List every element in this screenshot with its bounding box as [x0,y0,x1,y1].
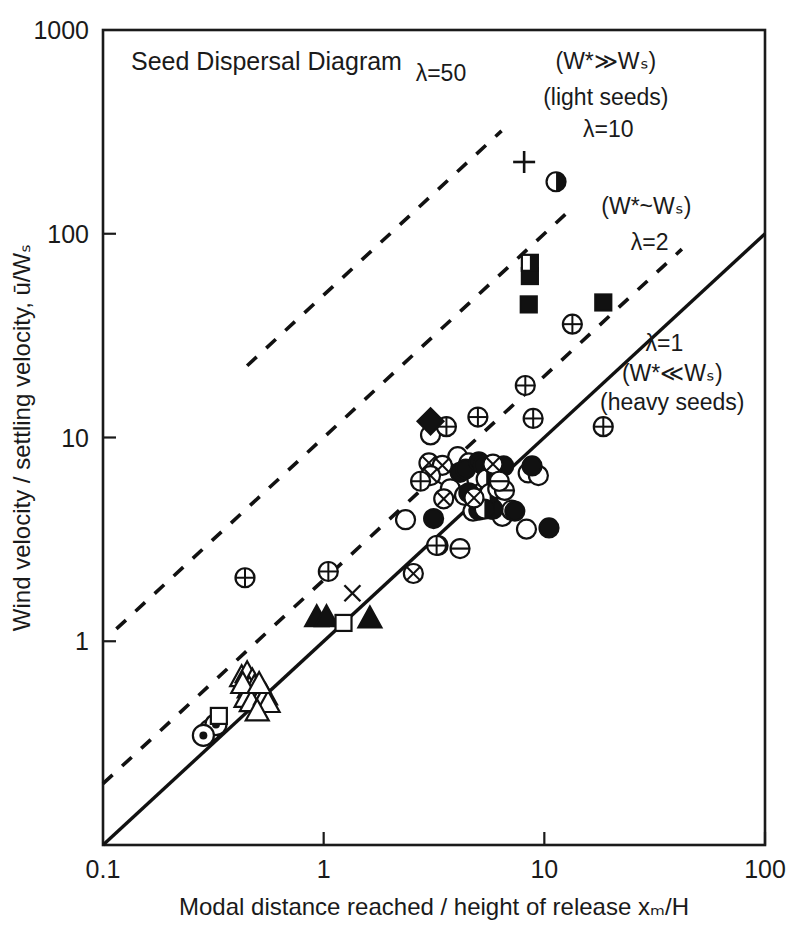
marker-crossed-circle [434,489,453,508]
annotation-lambda-2: λ=2 [631,229,669,255]
marker-circled-dot [193,725,214,746]
annotation-lambda-1: λ=1 [646,330,684,356]
annotation-w-much-greater: (W*≫Wₛ) [556,48,657,74]
annotation-w-approx: (W*~Wₛ) [601,193,691,219]
marker-plus-circle [594,417,613,436]
annotation-heavy-seeds: (heavy seeds) [600,389,744,415]
y-axis-title: Wind velocity / settling velocity, ū/Wₛ [8,244,35,631]
x-tick-label: 0.1 [86,855,121,883]
marker-open-circle [396,510,415,529]
marker-open-square [211,708,227,724]
marker-plus-circle [563,315,582,334]
x-tick-label: 10 [530,855,558,883]
marker-plus-circle [319,562,338,581]
y-tick-label: 1 [75,627,89,655]
y-tick-label: 1000 [33,16,89,44]
annotation-lambda-10: λ=10 [583,116,634,142]
marker-filled-circle [424,509,443,528]
x-axis-title: Modal distance reached / height of relea… [179,893,689,920]
marker-filled-circle [505,502,524,521]
marker-minus-circle [451,539,470,558]
marker-plus-circle [235,568,254,587]
seed-dispersal-chart: 0.11101001000100101λ=50(W*≫Wₛ)(light see… [0,0,787,936]
annotation-light-seeds: (light seeds) [543,84,668,110]
marker-filled-square [521,296,537,312]
marker-open-circle [517,520,536,539]
annotation-lambda-50: λ=50 [416,60,467,86]
marker-half-circle [547,172,566,191]
marker-crossed-circle [404,564,423,583]
y-tick-label: 100 [47,220,89,248]
marker-minus-circle [490,472,509,491]
y-tick-label: 10 [61,424,89,452]
marker-plus-circle [524,409,543,428]
series-half-filled-square [522,255,538,271]
marker-plus-circle [411,472,430,491]
marker-plus-circle [427,536,446,555]
plot-title: Seed Dispersal Diagram [131,47,402,75]
chart-background [0,0,787,936]
marker-open-square [336,615,352,631]
annotation-w-much-less: (W*≪Wₛ) [622,360,723,386]
marker-filled-circle [540,518,559,537]
x-tick-label: 100 [744,855,786,883]
marker-crossed-circle [464,488,483,507]
marker-plus-circle [516,376,535,395]
marker-filled-circle [523,456,542,475]
marker-plus-circle [468,408,487,427]
marker-filled-square [595,294,611,310]
marker-half-square [522,255,538,271]
x-tick-label: 1 [317,855,331,883]
